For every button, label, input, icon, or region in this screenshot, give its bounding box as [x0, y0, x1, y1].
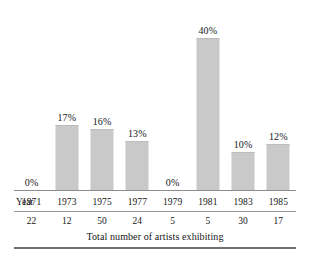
total-cell-1983: 30	[226, 212, 261, 230]
totals-cells: 22125024553017	[14, 212, 296, 230]
total-cell-1979: 5	[155, 212, 190, 230]
plot-area: 0%17%16%13%0%40%10%12%	[14, 8, 296, 190]
rule-bottom	[14, 247, 296, 249]
bar-slot-1983: 10%	[226, 8, 261, 190]
bar-slot-1977: 13%	[120, 8, 155, 190]
bar-1981[interactable]	[196, 38, 219, 190]
bar-slot-1985: 12%	[261, 8, 296, 190]
totals-row: 22125024553017	[14, 212, 296, 230]
total-cell-1975: 50	[85, 212, 120, 230]
year-cell-1977: 1977	[120, 192, 155, 211]
year-cell-1983: 1983	[226, 192, 261, 211]
year-cell-1981: 1981	[190, 192, 225, 211]
rule-top	[14, 190, 296, 191]
year-cells: 19711973197519771979198119831985	[14, 192, 296, 211]
bar-value-label-1983: 10%	[234, 139, 253, 150]
bar-1973[interactable]	[55, 125, 78, 190]
bar-value-label-1971: 0%	[25, 177, 39, 188]
bar-value-label-1977: 13%	[128, 128, 147, 139]
bar-slot-1975: 16%	[85, 8, 120, 190]
bar-value-label-1981: 40%	[198, 25, 217, 36]
bar-slot-1971: 0%	[14, 8, 49, 190]
bar-value-label-1975: 16%	[93, 116, 112, 127]
year-row: Year 19711973197519771979198119831985	[14, 192, 296, 211]
bar-1983[interactable]	[232, 152, 255, 190]
year-cell-1979: 1979	[155, 192, 190, 211]
figure-bar-chart: 0%17%16%13%0%40%10%12% Year 197119731975…	[0, 0, 311, 256]
year-cell-1971: 1971	[14, 192, 49, 211]
bar-slot-1981: 40%	[190, 8, 225, 190]
total-cell-1973: 12	[49, 212, 84, 230]
year-cell-1985: 1985	[261, 192, 296, 211]
total-cell-1981: 5	[190, 212, 225, 230]
bar-1985[interactable]	[267, 144, 290, 190]
bar-value-label-1973: 17%	[57, 112, 76, 123]
chart-caption: Total number of artists exhibiting	[14, 231, 296, 242]
bar-1975[interactable]	[91, 129, 114, 190]
total-cell-1985: 17	[261, 212, 296, 230]
total-cell-1977: 24	[120, 212, 155, 230]
bar-value-label-1979: 0%	[166, 177, 180, 188]
year-cell-1973: 1973	[49, 192, 84, 211]
total-cell-1971: 22	[14, 212, 49, 230]
bar-slot-1979: 0%	[155, 8, 190, 190]
bar-value-label-1985: 12%	[269, 131, 288, 142]
bar-slot-1973: 17%	[49, 8, 84, 190]
bar-1977[interactable]	[126, 141, 149, 190]
year-cell-1975: 1975	[85, 192, 120, 211]
